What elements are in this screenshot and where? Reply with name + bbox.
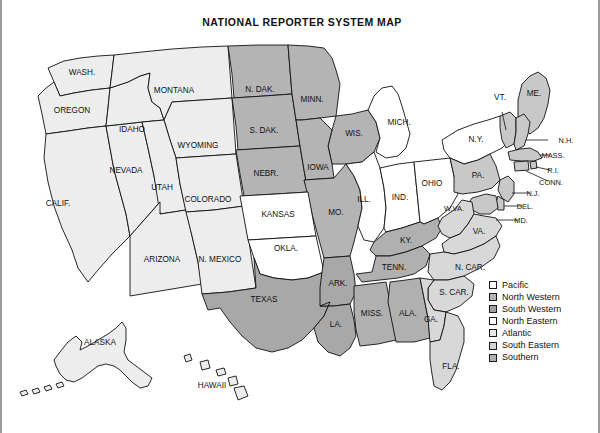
state-label-OR: OREGON bbox=[54, 106, 90, 115]
state-label-NM: N. MEXICO bbox=[199, 255, 242, 264]
legend-label-south-western: South Western bbox=[502, 305, 561, 314]
state-label-AL: ALA. bbox=[399, 309, 417, 318]
state-label-SD: S. DAK. bbox=[249, 126, 278, 135]
legend-label-south-eastern: South Eastern bbox=[502, 341, 559, 350]
state-label-FL: FLA. bbox=[442, 362, 459, 371]
state-label-AZ: ARIZONA bbox=[144, 255, 181, 264]
legend-item-south-western[interactable]: South Western bbox=[489, 303, 589, 315]
state-label-IA: IOWA bbox=[307, 163, 329, 172]
state-label-OK: OKLA. bbox=[274, 244, 298, 253]
state-label-MO: MO. bbox=[328, 208, 343, 217]
legend-swatch-southern bbox=[489, 354, 497, 362]
legend-label-north-eastern: North Eastern bbox=[502, 317, 558, 326]
legend-item-south-eastern[interactable]: South Eastern bbox=[489, 339, 589, 351]
state-label-MI: MICH. bbox=[387, 118, 410, 127]
state-SD[interactable] bbox=[232, 94, 300, 150]
state-label-WI: WIS. bbox=[345, 129, 363, 138]
state-label-WY: WYOMING bbox=[178, 141, 219, 150]
state-label-IN: IND. bbox=[392, 193, 408, 202]
legend-swatch-south-western bbox=[489, 305, 497, 313]
state-MA[interactable] bbox=[508, 148, 542, 161]
legend-swatch-north-eastern bbox=[489, 317, 497, 325]
state-HI[interactable] bbox=[184, 354, 248, 400]
state-label-MD: MD. bbox=[514, 216, 528, 225]
state-NH[interactable] bbox=[514, 114, 530, 150]
legend: Pacific North Western South Western Nort… bbox=[489, 279, 589, 364]
state-label-CT: CONN. bbox=[539, 178, 563, 187]
legend-item-southern[interactable]: Southern bbox=[489, 352, 589, 364]
state-label-ME: ME. bbox=[527, 89, 542, 98]
state-label-OH: OHIO bbox=[422, 179, 443, 188]
state-label-UT: UTAH bbox=[151, 183, 173, 192]
state-AK-aleutians[interactable] bbox=[20, 382, 64, 396]
state-label-NC: N. CAR. bbox=[455, 263, 485, 272]
state-label-IL: ILL. bbox=[357, 195, 371, 204]
state-CT[interactable] bbox=[514, 161, 529, 171]
us-map: WASH. OREGON CALIF. NEVADA IDAHO MONTANA… bbox=[2, 30, 600, 433]
state-MN[interactable] bbox=[288, 45, 340, 120]
state-label-LA: LA. bbox=[330, 320, 342, 329]
legend-swatch-north-western bbox=[489, 293, 497, 301]
state-label-RI: R.I. bbox=[547, 166, 559, 175]
state-label-NV: NEVADA bbox=[109, 166, 143, 175]
map-page: NATIONAL REPORTER SYSTEM MAP bbox=[0, 0, 600, 433]
state-AK[interactable] bbox=[54, 322, 152, 388]
state-label-MS: MISS. bbox=[361, 309, 383, 318]
legend-item-atlantic[interactable]: Atlantic bbox=[489, 327, 589, 339]
state-label-MT: MONTANA bbox=[154, 86, 195, 95]
page-title: NATIONAL REPORTER SYSTEM MAP bbox=[2, 16, 600, 28]
state-label-CO: COLORADO bbox=[185, 195, 232, 204]
state-RI[interactable] bbox=[530, 161, 537, 169]
state-label-WV: W.VA. bbox=[444, 204, 464, 213]
state-label-AK: ALASKA bbox=[84, 338, 116, 347]
legend-label-atlantic: Atlantic bbox=[502, 329, 532, 338]
legend-label-north-western: North Western bbox=[502, 293, 560, 302]
state-label-MN: MINN. bbox=[300, 95, 323, 104]
state-label-WA: WASH. bbox=[69, 68, 96, 77]
state-label-ID: IDAHO bbox=[119, 125, 145, 134]
state-label-VA: VA. bbox=[473, 227, 486, 236]
state-label-KS: KANSAS bbox=[261, 210, 295, 219]
state-label-NY: N.Y. bbox=[469, 135, 484, 144]
state-label-DE: DEL. bbox=[517, 202, 533, 211]
legend-item-north-western[interactable]: North Western bbox=[489, 291, 589, 303]
state-label-TN: TENN. bbox=[382, 263, 407, 272]
legend-item-north-eastern[interactable]: North Eastern bbox=[489, 315, 589, 327]
legend-swatch-south-eastern bbox=[489, 342, 497, 350]
state-label-NH: N.H. bbox=[559, 136, 574, 145]
state-label-GA: GA. bbox=[424, 315, 438, 324]
state-label-CA: CALIF. bbox=[46, 199, 71, 208]
state-label-NJ: N.J. bbox=[526, 189, 539, 198]
state-label-VT: VT. bbox=[494, 93, 506, 102]
state-label-MA: MASS. bbox=[542, 151, 565, 160]
state-label-HI: HAWAII bbox=[198, 381, 227, 390]
state-label-ND: N. DAK. bbox=[245, 85, 275, 94]
state-label-KY: KY. bbox=[400, 236, 412, 245]
legend-swatch-pacific bbox=[489, 281, 497, 289]
state-label-PA: PA. bbox=[472, 171, 485, 180]
legend-item-pacific[interactable]: Pacific bbox=[489, 279, 589, 291]
legend-label-pacific: Pacific bbox=[502, 281, 529, 290]
state-label-NE: NEBR. bbox=[253, 169, 278, 178]
state-label-AR: ARK. bbox=[328, 279, 347, 288]
state-label-SC: S. CAR. bbox=[439, 288, 469, 297]
legend-swatch-atlantic bbox=[489, 329, 497, 337]
state-label-TX: TEXAS bbox=[251, 295, 278, 304]
legend-label-southern: Southern bbox=[502, 353, 539, 362]
